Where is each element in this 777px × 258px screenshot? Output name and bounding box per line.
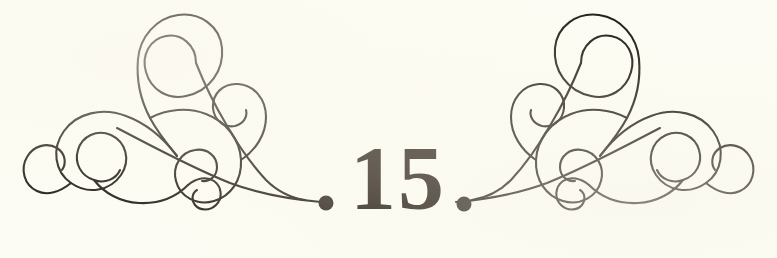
left-main-sweep-stroke bbox=[56, 112, 177, 190]
left-bottom-curl-stroke bbox=[188, 178, 221, 209]
right-lower-sweep-stroke bbox=[589, 180, 683, 203]
page-ornament: 15 bbox=[0, 0, 777, 258]
right-top-spiral-stroke bbox=[555, 15, 640, 156]
left-lower-sweep-stroke bbox=[94, 180, 188, 203]
left-diagonal-tail-stroke bbox=[117, 128, 321, 202]
right-flourish bbox=[456, 15, 753, 212]
left-top-spiral-stroke bbox=[138, 15, 223, 156]
ornament-artwork bbox=[0, 0, 777, 258]
left-flourish bbox=[24, 15, 334, 211]
left-inner-loop-stroke bbox=[150, 110, 241, 203]
left-terminal-dot bbox=[319, 196, 334, 211]
right-terminal-dot bbox=[457, 197, 472, 212]
right-diagonal-tail-stroke bbox=[456, 128, 660, 202]
right-main-sweep-stroke bbox=[600, 112, 721, 190]
right-bottom-curl-stroke bbox=[556, 178, 589, 209]
right-outer-right-curl-stroke bbox=[706, 145, 753, 193]
right-inner-loop-stroke bbox=[536, 110, 627, 203]
left-outer-left-curl-stroke bbox=[24, 145, 71, 193]
